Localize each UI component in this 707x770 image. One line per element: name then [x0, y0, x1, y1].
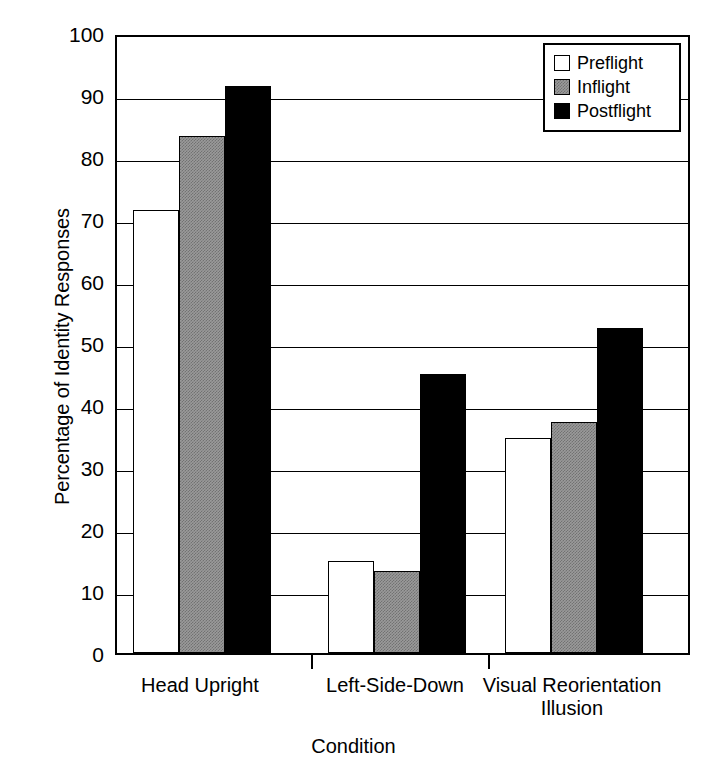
bar-postflight-group-1 — [225, 86, 271, 653]
y-axis-tick-label: 90 — [12, 86, 104, 107]
y-axis-tick-label: 20 — [12, 520, 104, 541]
x-axis-category-label-line: Visual Reorientation — [457, 674, 687, 697]
bar-preflight-group-2 — [328, 561, 374, 653]
legend-item-inflight: Inflight — [554, 75, 672, 99]
x-axis-title: Condition — [0, 735, 707, 758]
bar-postflight-group-3 — [597, 328, 643, 654]
y-axis-tick-label: 50 — [12, 334, 104, 355]
legend-swatch-inflight-icon — [554, 79, 570, 95]
y-axis-tick-label: 100 — [12, 24, 104, 45]
bar-inflight-group-1 — [179, 136, 225, 653]
y-axis-tick-label: 70 — [12, 210, 104, 231]
y-axis-tick-label: 30 — [12, 458, 104, 479]
bar-preflight-group-1 — [133, 210, 179, 653]
y-axis-tick-label: 60 — [12, 272, 104, 293]
legend: Preflight Inflight Postflight — [543, 43, 681, 132]
bar-inflight-group-2 — [374, 571, 420, 653]
bar-preflight-group-3 — [505, 438, 551, 653]
x-axis-category-label-line: Illusion — [457, 697, 687, 720]
y-axis-tick-label: 80 — [12, 148, 104, 169]
y-axis-tick-labels: 0102030405060708090100 — [0, 0, 104, 770]
legend-label-postflight: Postflight — [577, 101, 651, 122]
x-axis-tick — [311, 655, 313, 669]
legend-item-preflight: Preflight — [554, 51, 672, 75]
legend-swatch-preflight-icon — [554, 55, 570, 71]
y-axis-tick-label: 0 — [12, 644, 104, 665]
bar-postflight-group-2 — [420, 374, 466, 653]
legend-swatch-postflight-icon — [554, 103, 570, 119]
y-axis-tick-label: 40 — [12, 396, 104, 417]
legend-label-inflight: Inflight — [577, 77, 630, 98]
x-axis-tick — [488, 655, 490, 669]
bar-chart: Percentage of Identity Responses 0102030… — [0, 0, 707, 770]
y-axis-tick-label: 10 — [12, 582, 104, 603]
bar-inflight-group-3 — [551, 422, 597, 653]
legend-label-preflight: Preflight — [577, 53, 643, 74]
legend-item-postflight: Postflight — [554, 99, 672, 123]
x-axis-category-label: Visual ReorientationIllusion — [457, 674, 687, 720]
